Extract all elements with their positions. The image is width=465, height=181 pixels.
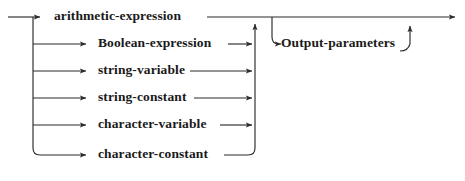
node-boolean-expression[interactable]: Boolean-expression (98, 36, 211, 50)
left-rail (33, 17, 86, 155)
node-output-parameters[interactable]: Output-parameters (281, 36, 395, 50)
node-string-variable[interactable]: string-variable (98, 63, 185, 77)
railroad-diagram: arithmetic-expression Boolean-expression… (0, 0, 465, 181)
diagram-rails (0, 0, 465, 181)
output-branch-drop (272, 17, 281, 44)
right-rail-bottom-curve (224, 148, 255, 155)
node-arithmetic-expression[interactable]: arithmetic-expression (54, 9, 181, 23)
node-string-constant[interactable]: string-constant (98, 90, 187, 104)
node-character-constant[interactable]: character-constant (98, 147, 208, 161)
node-character-variable[interactable]: character-variable (98, 117, 207, 131)
output-branch-rejoin (400, 26, 410, 51)
